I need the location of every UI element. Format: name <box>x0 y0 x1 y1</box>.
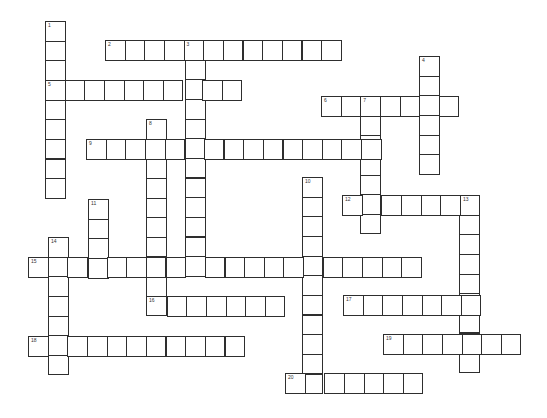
crossword-cell[interactable] <box>48 257 69 278</box>
crossword-cell[interactable] <box>302 295 323 316</box>
crossword-cell[interactable] <box>442 334 463 355</box>
letter-input[interactable] <box>303 41 322 60</box>
crossword-cell[interactable] <box>185 60 206 81</box>
letter-input[interactable] <box>46 179 65 198</box>
crossword-cell[interactable]: 17 <box>343 295 364 316</box>
crossword-cell[interactable] <box>45 139 66 160</box>
crossword-cell[interactable] <box>439 96 460 117</box>
letter-input[interactable] <box>322 97 341 116</box>
crossword-cell[interactable] <box>419 76 440 97</box>
letter-input[interactable] <box>186 198 205 217</box>
crossword-cell[interactable] <box>126 336 147 357</box>
crossword-cell[interactable]: 6 <box>321 96 342 117</box>
crossword-cell[interactable] <box>185 197 206 218</box>
letter-input[interactable] <box>460 216 479 235</box>
crossword-cell[interactable] <box>48 355 69 376</box>
letter-input[interactable] <box>186 257 205 276</box>
letter-input[interactable] <box>165 41 184 60</box>
crossword-cell[interactable] <box>185 336 206 357</box>
crossword-cell[interactable] <box>302 334 323 355</box>
letter-input[interactable] <box>125 81 144 100</box>
letter-input[interactable] <box>186 100 205 119</box>
crossword-cell[interactable] <box>302 275 323 296</box>
crossword-cell[interactable]: 3 <box>184 40 205 61</box>
crossword-cell[interactable]: 9 <box>86 139 107 160</box>
letter-input[interactable] <box>361 215 380 234</box>
letter-input[interactable] <box>147 199 166 218</box>
letter-input[interactable] <box>244 140 263 159</box>
letter-input[interactable] <box>420 136 439 155</box>
letter-input[interactable] <box>263 41 282 60</box>
letter-input[interactable] <box>68 258 87 277</box>
crossword-cell[interactable] <box>48 316 69 337</box>
letter-input[interactable] <box>187 297 206 316</box>
letter-input[interactable] <box>49 297 68 316</box>
letter-input[interactable] <box>502 335 521 354</box>
letter-input[interactable] <box>420 155 439 174</box>
crossword-cell[interactable] <box>245 296 266 317</box>
letter-input[interactable] <box>460 353 479 372</box>
letter-input[interactable] <box>343 196 362 215</box>
crossword-cell[interactable] <box>48 296 69 317</box>
letter-input[interactable] <box>303 198 322 217</box>
crossword-cell[interactable] <box>383 373 404 394</box>
crossword-cell[interactable] <box>185 119 206 140</box>
crossword-cell[interactable] <box>45 60 66 81</box>
crossword-cell[interactable] <box>124 80 145 101</box>
crossword-cell[interactable] <box>402 295 423 316</box>
crossword-cell[interactable] <box>146 217 167 238</box>
crossword-cell[interactable] <box>362 257 383 278</box>
crossword-cell[interactable] <box>164 40 185 61</box>
crossword-cell[interactable] <box>185 217 206 238</box>
letter-input[interactable] <box>46 61 65 80</box>
crossword-cell[interactable] <box>205 336 226 357</box>
letter-input[interactable] <box>345 374 364 393</box>
crossword-cell[interactable] <box>341 96 362 117</box>
crossword-cell[interactable] <box>283 139 304 160</box>
letter-input[interactable] <box>404 335 423 354</box>
crossword-cell[interactable] <box>185 99 206 120</box>
crossword-cell[interactable] <box>67 336 88 357</box>
crossword-cell[interactable]: 13 <box>460 195 481 216</box>
letter-input[interactable] <box>384 374 403 393</box>
letter-input[interactable] <box>49 336 68 355</box>
letter-input[interactable] <box>404 374 423 393</box>
letter-input[interactable] <box>88 337 107 356</box>
crossword-cell[interactable] <box>400 96 421 117</box>
crossword-cell[interactable] <box>302 256 323 277</box>
crossword-cell[interactable] <box>222 80 243 101</box>
crossword-cell[interactable]: 20 <box>285 373 306 394</box>
letter-input[interactable] <box>108 258 127 277</box>
letter-input[interactable] <box>49 317 68 336</box>
crossword-cell[interactable]: 1 <box>45 21 66 42</box>
letter-input[interactable] <box>206 337 225 356</box>
crossword-cell[interactable] <box>88 258 109 279</box>
crossword-cell[interactable] <box>146 178 167 199</box>
letter-input[interactable] <box>164 81 183 100</box>
letter-input[interactable] <box>361 97 380 116</box>
crossword-cell[interactable] <box>45 159 66 180</box>
crossword-cell[interactable] <box>459 313 480 334</box>
letter-input[interactable] <box>245 258 264 277</box>
letter-input[interactable] <box>127 337 146 356</box>
letter-input[interactable] <box>186 159 205 178</box>
letter-input[interactable] <box>264 140 283 159</box>
crossword-cell[interactable] <box>185 256 206 277</box>
crossword-cell[interactable] <box>84 80 105 101</box>
letter-input[interactable] <box>146 140 165 159</box>
crossword-cell[interactable] <box>401 195 422 216</box>
crossword-cell[interactable]: 12 <box>342 195 363 216</box>
letter-input[interactable] <box>384 335 403 354</box>
crossword-cell[interactable] <box>185 138 206 159</box>
letter-input[interactable] <box>206 258 225 277</box>
letter-input[interactable] <box>186 61 205 80</box>
crossword-cell[interactable] <box>422 295 443 316</box>
letter-input[interactable] <box>461 196 480 215</box>
crossword-cell[interactable] <box>185 158 206 179</box>
letter-input[interactable] <box>89 220 108 239</box>
letter-input[interactable] <box>364 296 383 315</box>
crossword-cell[interactable] <box>145 139 166 160</box>
letter-input[interactable] <box>167 258 186 277</box>
letter-input[interactable] <box>284 140 303 159</box>
crossword-cell[interactable] <box>88 238 109 259</box>
